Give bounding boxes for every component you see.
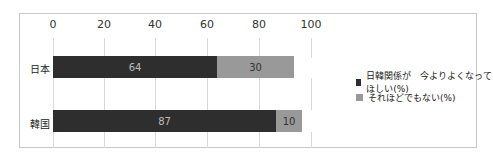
bar-segment-want-better: 87 — [53, 110, 276, 132]
gridline — [311, 78, 312, 110]
gridline — [53, 132, 54, 148]
bar-segment-want-better: 64 — [53, 56, 217, 78]
legend-swatch — [356, 79, 361, 86]
gridline — [259, 78, 260, 110]
gridline — [259, 38, 260, 58]
bar-segment-not-really: 10 — [276, 110, 302, 132]
bar-segment-not-really: 30 — [217, 56, 294, 78]
gridline — [207, 38, 208, 58]
category-label-korea: 韓国 — [30, 116, 50, 131]
gridline — [53, 78, 54, 110]
bar-japan: 64 30 — [53, 56, 294, 78]
gridline — [155, 78, 156, 110]
x-tick: 60 — [200, 18, 214, 31]
x-tick: 40 — [148, 18, 162, 31]
gridline — [207, 78, 208, 110]
bar-korea: 87 10 — [53, 110, 302, 132]
gridline — [311, 38, 312, 58]
x-tick: 20 — [97, 18, 111, 31]
gridline — [104, 78, 105, 110]
legend-swatch — [356, 94, 363, 101]
legend-label: それほどでもない(%) — [368, 91, 456, 104]
gridline — [155, 132, 156, 148]
legend-item-not-really: それほどでもない(%) — [356, 91, 456, 104]
gridline — [259, 132, 260, 148]
gridline — [207, 132, 208, 148]
gridline — [155, 38, 156, 58]
x-tick: 0 — [50, 18, 57, 31]
gridline — [311, 132, 312, 148]
x-tick: 100 — [301, 18, 322, 31]
x-tick: 80 — [252, 18, 266, 31]
gridline — [104, 38, 105, 58]
gridline — [53, 38, 54, 58]
category-label-japan: 日本 — [30, 61, 50, 76]
gridline — [104, 132, 105, 148]
